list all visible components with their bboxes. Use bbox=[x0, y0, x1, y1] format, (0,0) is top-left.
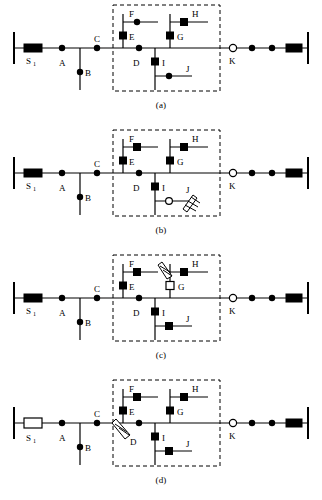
node-label-e: E bbox=[129, 407, 135, 417]
node-c[interactable] bbox=[94, 45, 100, 51]
node-right-1[interactable] bbox=[249, 45, 255, 51]
node-label-j: J bbox=[186, 64, 190, 74]
node-right-2[interactable] bbox=[269, 170, 275, 176]
device-j[interactable] bbox=[166, 323, 173, 330]
node-label-j: J bbox=[186, 314, 190, 324]
end-breaker[interactable] bbox=[286, 44, 302, 52]
device-e[interactable] bbox=[120, 407, 127, 414]
node-right-2[interactable] bbox=[269, 295, 275, 301]
panel-a: S 1 A B C E F D I bbox=[0, 0, 322, 100]
node-j[interactable] bbox=[166, 198, 173, 205]
device-i[interactable] bbox=[152, 308, 159, 315]
node-label-e: E bbox=[129, 32, 135, 42]
source-breaker-s1[interactable] bbox=[24, 294, 42, 302]
node-label-f: F bbox=[129, 259, 134, 269]
node-label-g: G bbox=[178, 282, 185, 292]
end-breaker[interactable] bbox=[286, 419, 302, 427]
node-a[interactable] bbox=[59, 170, 65, 176]
device-g[interactable] bbox=[167, 157, 174, 164]
device-i[interactable] bbox=[152, 433, 159, 440]
node-label-g: G bbox=[177, 407, 184, 417]
node-c[interactable] bbox=[94, 170, 100, 176]
device-f[interactable] bbox=[134, 394, 141, 401]
device-h[interactable] bbox=[181, 269, 188, 276]
device-g[interactable] bbox=[166, 282, 174, 290]
node-j[interactable] bbox=[166, 73, 172, 79]
fault-indicator-icon bbox=[183, 195, 200, 212]
tie-label-k: K bbox=[229, 431, 236, 441]
node-label-f: F bbox=[129, 9, 134, 19]
device-f[interactable] bbox=[134, 144, 141, 151]
device-e[interactable] bbox=[120, 282, 127, 289]
node-label-c: C bbox=[94, 34, 100, 44]
device-f[interactable] bbox=[134, 269, 141, 276]
panel-caption-b: (b) bbox=[0, 225, 322, 235]
device-j[interactable] bbox=[166, 448, 173, 455]
source-sublabel-s1: 1 bbox=[33, 186, 36, 192]
node-b[interactable] bbox=[77, 319, 83, 325]
device-e[interactable] bbox=[120, 157, 127, 164]
end-breaker[interactable] bbox=[286, 169, 302, 177]
tie-point-k[interactable] bbox=[229, 294, 236, 301]
panel-caption-d: (d) bbox=[0, 475, 322, 485]
panel-c: S 1 A B C E F D I J G bbox=[0, 250, 322, 350]
source-breaker-s1[interactable] bbox=[24, 44, 42, 52]
tie-point-k[interactable] bbox=[229, 419, 236, 426]
tie-label-k: K bbox=[229, 306, 236, 316]
node-b[interactable] bbox=[77, 194, 83, 200]
device-g[interactable] bbox=[167, 407, 174, 414]
tie-point-k[interactable] bbox=[229, 169, 236, 176]
node-label-g: G bbox=[177, 32, 184, 42]
node-a[interactable] bbox=[59, 45, 65, 51]
node-right-2[interactable] bbox=[269, 45, 275, 51]
node-c[interactable] bbox=[94, 295, 100, 301]
node-label-b: B bbox=[85, 443, 91, 453]
node-b[interactable] bbox=[77, 69, 83, 75]
node-d[interactable] bbox=[136, 420, 142, 426]
node-a[interactable] bbox=[59, 295, 65, 301]
device-h[interactable] bbox=[181, 19, 188, 26]
node-d[interactable] bbox=[136, 170, 142, 176]
node-label-h: H bbox=[192, 384, 199, 394]
node-f[interactable] bbox=[134, 19, 140, 25]
node-right-2[interactable] bbox=[269, 420, 275, 426]
node-label-b: B bbox=[85, 193, 91, 203]
node-label-a: A bbox=[59, 58, 66, 68]
node-label-i: I bbox=[162, 183, 165, 193]
node-c[interactable] bbox=[94, 420, 100, 426]
node-label-b: B bbox=[85, 318, 91, 328]
node-right-1[interactable] bbox=[249, 295, 255, 301]
source-breaker-s1[interactable] bbox=[24, 169, 42, 177]
device-i[interactable] bbox=[152, 58, 159, 65]
node-label-d: D bbox=[133, 308, 140, 318]
source-sublabel-s1: 1 bbox=[33, 311, 36, 317]
device-i[interactable] bbox=[152, 183, 159, 190]
node-a[interactable] bbox=[59, 420, 65, 426]
tie-point-k[interactable] bbox=[229, 44, 236, 51]
node-right-1[interactable] bbox=[249, 420, 255, 426]
node-label-g: G bbox=[177, 157, 184, 167]
node-right-1[interactable] bbox=[249, 170, 255, 176]
node-b[interactable] bbox=[77, 444, 83, 450]
node-label-f: F bbox=[129, 384, 134, 394]
panel-b-diagram: S 1 A B C E F D I J bbox=[0, 125, 322, 225]
node-label-e: E bbox=[129, 157, 135, 167]
node-label-a: A bbox=[59, 183, 66, 193]
node-d[interactable] bbox=[136, 45, 142, 51]
node-label-j: J bbox=[186, 185, 190, 195]
source-label-s1: S bbox=[26, 56, 31, 66]
source-breaker-s1[interactable] bbox=[24, 418, 42, 428]
node-label-i: I bbox=[162, 433, 165, 443]
node-d[interactable] bbox=[136, 295, 142, 301]
device-g[interactable] bbox=[167, 32, 174, 39]
node-label-h: H bbox=[192, 259, 199, 269]
node-label-c: C bbox=[94, 284, 100, 294]
fault-indicator-icon bbox=[112, 419, 130, 439]
node-label-a: A bbox=[59, 308, 66, 318]
device-e[interactable] bbox=[120, 32, 127, 39]
end-breaker[interactable] bbox=[286, 294, 302, 302]
device-h[interactable] bbox=[181, 394, 188, 401]
panel-b: S 1 A B C E F D I J bbox=[0, 125, 322, 225]
device-h[interactable] bbox=[181, 144, 188, 151]
node-label-f: F bbox=[129, 134, 134, 144]
